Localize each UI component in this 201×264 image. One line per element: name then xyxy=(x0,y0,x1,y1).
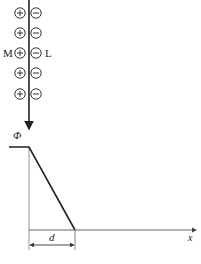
positive-charge-icon xyxy=(15,8,25,18)
label-phi: Φ xyxy=(13,129,22,141)
positive-charge-icon xyxy=(15,28,25,38)
negative-charge-icon xyxy=(31,8,41,18)
positive-charge-icon xyxy=(15,68,25,78)
positive-charge-icon xyxy=(15,89,25,99)
label-m: M xyxy=(3,47,13,59)
negative-charge-icon xyxy=(31,68,41,78)
negative-charge-icon xyxy=(31,89,41,99)
charge-column-negative xyxy=(31,8,41,99)
negative-charge-icon xyxy=(31,48,41,58)
label-x: x xyxy=(187,232,193,243)
negative-charge-icon xyxy=(31,28,41,38)
positive-charge-icon xyxy=(15,48,25,58)
label-d: d xyxy=(49,231,55,243)
potential-diagram: M L Φ x d xyxy=(0,0,201,264)
label-l: L xyxy=(45,47,52,59)
charge-column-positive xyxy=(15,8,25,99)
potential-curve xyxy=(9,147,75,230)
